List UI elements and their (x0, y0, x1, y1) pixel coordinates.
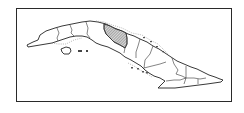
cuba-map (0, 0, 244, 113)
cayo-icon (78, 50, 82, 52)
isla-de-la-juventud (61, 47, 71, 54)
cayo-icon (86, 50, 88, 52)
